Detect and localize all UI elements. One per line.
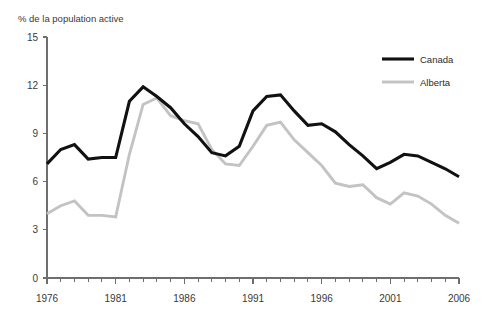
x-tick-label-2006: 2006 <box>448 293 471 304</box>
y-tick-label-0: 0 <box>32 273 38 284</box>
series-line-alberta <box>47 98 459 223</box>
y-tick-label-6: 6 <box>32 176 38 187</box>
y-axis-title: % de la population active <box>18 13 124 24</box>
x-tick-label-1996: 1996 <box>311 293 334 304</box>
x-axis-ticks: 1976198119861991199620012006 <box>36 278 471 304</box>
chart-legend: Canada Alberta <box>382 54 454 88</box>
unemployment-rate-line-chart: % de la population active 03691215 19761… <box>0 0 497 315</box>
x-tick-label-1981: 1981 <box>105 293 128 304</box>
x-tick-label-1991: 1991 <box>242 293 265 304</box>
y-tick-label-3: 3 <box>32 224 38 235</box>
x-tick-label-1976: 1976 <box>36 293 59 304</box>
y-axis-ticks: 03691215 <box>27 32 47 284</box>
series-line-canada <box>47 87 459 177</box>
legend-label-canada: Canada <box>420 54 454 65</box>
legend-label-alberta: Alberta <box>420 77 451 88</box>
chart-plot-area: % de la population active 03691215 19761… <box>0 0 497 315</box>
y-tick-label-15: 15 <box>27 32 39 43</box>
y-tick-label-9: 9 <box>32 128 38 139</box>
x-tick-label-2001: 2001 <box>379 293 402 304</box>
y-tick-label-12: 12 <box>27 80 39 91</box>
x-tick-label-1986: 1986 <box>173 293 196 304</box>
